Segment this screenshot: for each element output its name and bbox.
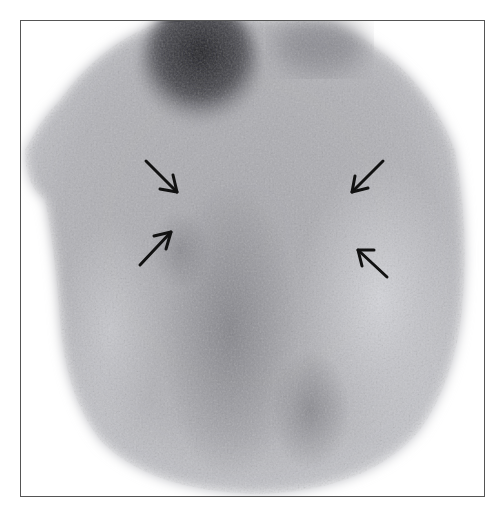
scan-image — [0, 0, 498, 507]
